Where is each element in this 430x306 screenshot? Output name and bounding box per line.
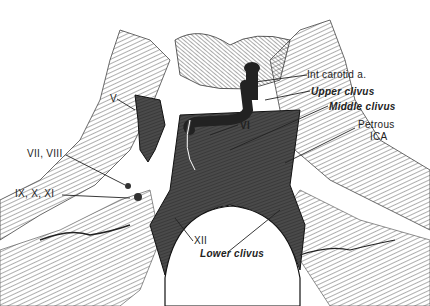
- label-int-carotid: Int carotid a.: [307, 69, 366, 80]
- label-vii-viii: VII, VIII: [27, 148, 63, 159]
- label-petrous: Petrous: [358, 119, 395, 130]
- trigeminal-nerve: [135, 95, 165, 162]
- label-petrous-ica: ICA: [370, 131, 388, 142]
- label-xii: XII: [194, 235, 207, 246]
- dorsum-sellae: [175, 34, 290, 89]
- clivus-drawing: [0, 0, 430, 306]
- label-ix-x-xi: IX, X, XI: [15, 188, 54, 199]
- label-middle-clivus: Middle clivus: [329, 101, 396, 112]
- anatomical-illustration: Int carotid a. Upper clivus Middle clivu…: [0, 0, 430, 306]
- label-v: V: [110, 93, 117, 104]
- label-upper-clivus: Upper clivus: [311, 86, 375, 97]
- label-lower-clivus: Lower clivus: [200, 248, 264, 259]
- label-vi: VI: [240, 120, 250, 131]
